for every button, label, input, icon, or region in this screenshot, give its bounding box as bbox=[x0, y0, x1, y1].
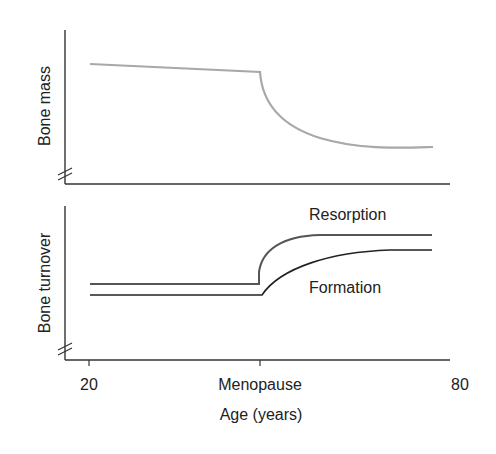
top-panel: Bone mass bbox=[36, 30, 450, 184]
bone-mass-turnover-figure: Bone mass Bone turnover Resorption Forma… bbox=[0, 0, 496, 454]
resorption-label: Resorption bbox=[309, 206, 386, 223]
tick-label-80: 80 bbox=[451, 376, 469, 393]
x-axis-labels: 20 Menopause 80 Age (years) bbox=[80, 376, 469, 423]
top-y-label: Bone mass bbox=[36, 66, 53, 146]
resorption-curve bbox=[90, 235, 432, 284]
bone-mass-curve bbox=[90, 64, 433, 148]
formation-label: Formation bbox=[309, 279, 381, 296]
x-axis-title: Age (years) bbox=[220, 406, 303, 423]
tick-label-menopause: Menopause bbox=[218, 376, 302, 393]
bottom-y-label: Bone turnover bbox=[36, 232, 53, 333]
bottom-panel: Bone turnover Resorption Formation bbox=[36, 206, 450, 366]
tick-label-20: 20 bbox=[80, 376, 98, 393]
